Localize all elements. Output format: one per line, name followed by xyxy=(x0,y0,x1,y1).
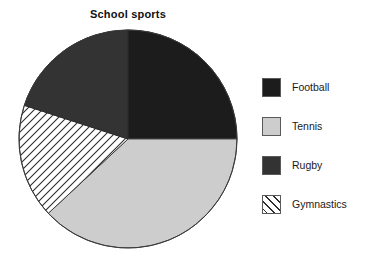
legend-label-tennis: Tennis xyxy=(292,121,322,132)
legend-item-tennis[interactable]: Tennis xyxy=(262,107,372,146)
legend-swatch-gymnastics-icon xyxy=(262,195,281,214)
pie-slice-group xyxy=(19,30,237,248)
legend-label-gymnastics: Gymnastics xyxy=(292,199,347,210)
chart-legend: Football Tennis Rugby Gymnastics xyxy=(262,68,372,224)
legend-swatch-tennis-icon xyxy=(262,117,281,136)
legend-label-rugby: Rugby xyxy=(292,160,322,171)
pie-chart-figure: School sports Football Tennis Rugby xyxy=(0,0,374,268)
legend-swatch-rugby-icon xyxy=(262,156,281,175)
legend-label-football: Football xyxy=(292,82,329,93)
pie-slice-football[interactable] xyxy=(128,30,237,139)
legend-item-gymnastics[interactable]: Gymnastics xyxy=(262,185,372,224)
legend-item-football[interactable]: Football xyxy=(262,68,372,107)
legend-swatch-football-icon xyxy=(262,78,281,97)
legend-item-rugby[interactable]: Rugby xyxy=(262,146,372,185)
